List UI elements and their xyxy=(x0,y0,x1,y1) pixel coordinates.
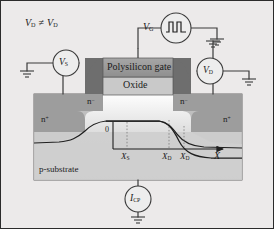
axis-tick-xd-1: XD xyxy=(162,151,172,161)
bias-condition-label: VD≠VD xyxy=(25,17,58,28)
drain-meter-label: VD xyxy=(203,65,213,75)
icp-sub: CP xyxy=(133,197,140,203)
figure-mosfet-charge-pumping: VD≠VD VG VS VD ICP Polysilicon gate Oxid… xyxy=(0,0,274,229)
region-label-n-plus-left: n+ xyxy=(41,114,49,124)
vg-sub: G xyxy=(149,25,153,32)
region-label-n-minus-right: n− xyxy=(180,96,188,106)
ground-icon-bulk xyxy=(131,217,145,223)
axis-tick-xs: XS xyxy=(121,151,130,161)
current-meter-label: ICP xyxy=(130,193,140,203)
ground-icon-source xyxy=(20,71,34,77)
p-substrate-label: p-substrate xyxy=(39,164,79,174)
source-meter-label: VS xyxy=(59,57,68,67)
bias-v2-sub: D xyxy=(53,21,57,28)
pulse-generator-icon xyxy=(161,13,191,43)
bias-relation: ≠ xyxy=(36,17,48,28)
polysilicon-gate-label: Polysilicon gate xyxy=(107,61,171,72)
region-label-n-minus-left: n− xyxy=(87,96,95,106)
vd-sub: D xyxy=(209,69,213,75)
axis-origin-label: 0 xyxy=(105,125,109,134)
bias-v1-sub: D xyxy=(31,21,35,28)
axis-tick-xd-2: XD xyxy=(180,151,190,161)
vs-sub: S xyxy=(65,61,68,67)
ground-icon-drain xyxy=(242,79,256,85)
oxide-label: Oxide xyxy=(123,79,147,90)
axis-label-x: X xyxy=(214,150,220,161)
gate-source-label: VG xyxy=(143,21,154,32)
region-label-n-plus-right: n+ xyxy=(223,114,231,124)
